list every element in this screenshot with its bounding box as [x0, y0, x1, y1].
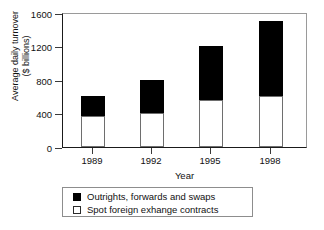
plot-area	[62, 13, 307, 148]
x-tick-label-1995: 1995	[186, 156, 234, 166]
x-tick-label-1992: 1992	[127, 156, 175, 166]
bar-1989-segment-spot	[81, 116, 105, 147]
bar-1992-segment-outrights	[140, 80, 164, 114]
x-tick-mark-1995	[210, 148, 211, 154]
filled-square-icon	[73, 193, 81, 201]
bar-1998-segment-outrights	[259, 21, 283, 96]
bar-1998[interactable]	[259, 21, 283, 147]
chart-legend: Outrights, forwards and swaps Spot forei…	[62, 187, 253, 217]
legend-item-outrights[interactable]: Outrights, forwards and swaps	[73, 191, 252, 203]
bar-1989-segment-outrights	[81, 96, 105, 115]
y-tick-label-800: 800	[0, 77, 52, 87]
y-tick-label-0: 0	[0, 144, 52, 154]
bar-1992[interactable]	[140, 80, 164, 148]
x-tick-mark-1992	[151, 148, 152, 154]
bar-1995-segment-outrights	[199, 46, 223, 101]
open-square-icon	[73, 206, 81, 214]
bar-1992-segment-spot	[140, 113, 164, 147]
x-tick-mark-1998	[270, 148, 271, 154]
y-tick-mark-0	[55, 148, 62, 149]
bar-1995[interactable]	[199, 46, 223, 147]
stacked-bar-chart-figure: Average daily turnover ($ billions) 1600…	[0, 0, 324, 230]
x-axis-title: Year	[62, 170, 307, 181]
bar-1998-segment-spot	[259, 96, 283, 147]
y-tick-mark-800	[55, 81, 62, 82]
legend-label-outrights: Outrights, forwards and swaps	[87, 192, 215, 202]
y-tick-mark-400	[55, 114, 62, 115]
y-tick-label-400: 400	[0, 110, 52, 120]
y-tick-label-1200: 1200	[0, 43, 52, 53]
legend-item-spot[interactable]: Spot foreign exhange contracts	[73, 204, 252, 216]
y-tick-mark-1200	[55, 47, 62, 48]
x-tick-mark-1989	[92, 148, 93, 154]
legend-label-spot: Spot foreign exhange contracts	[87, 205, 219, 215]
bar-1995-segment-spot	[199, 100, 223, 147]
x-tick-label-1998: 1998	[246, 156, 294, 166]
y-tick-label-1600: 1600	[0, 10, 52, 20]
x-tick-label-1989: 1989	[68, 156, 116, 166]
y-tick-mark-1600	[55, 14, 62, 15]
bar-1989[interactable]	[81, 96, 105, 147]
